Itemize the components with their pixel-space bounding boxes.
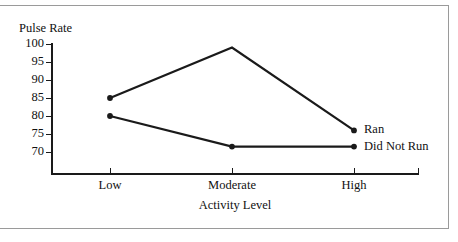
x-axis-title: Activity Level: [51, 198, 419, 212]
chart-figure: Pulse Rate 100959085807570 LowModerateHi…: [0, 0, 458, 242]
series-line-ran: [110, 48, 354, 131]
data-point-marker: [107, 95, 113, 101]
series-line-did-not-run: [110, 116, 354, 147]
series-label-ran: Ran: [364, 123, 384, 136]
data-point-marker: [229, 144, 235, 150]
data-point-marker: [351, 144, 357, 150]
data-point-marker: [351, 127, 357, 133]
plot-area: Pulse Rate 100959085807570 LowModerateHi…: [0, 0, 458, 242]
series-label-did-not-run: Did Not Run: [364, 140, 429, 153]
data-point-marker: [107, 113, 113, 119]
